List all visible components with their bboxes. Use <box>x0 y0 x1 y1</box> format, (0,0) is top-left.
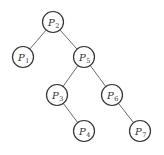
node-subscript: 5 <box>86 57 90 65</box>
tree-node-p5: P5 <box>74 47 95 68</box>
binary-tree-diagram: P2P1P5P3P6P4P7 <box>0 0 164 155</box>
tree-node-p1: P1 <box>13 47 34 68</box>
node-subscript: 3 <box>59 95 63 103</box>
tree-edge-n6-n7 <box>118 103 133 122</box>
node-subscript: 4 <box>86 131 90 139</box>
node-subscript: 7 <box>142 131 146 139</box>
edges <box>30 30 134 123</box>
node-subscript: 6 <box>114 95 118 103</box>
tree-node-p4: P4 <box>74 121 95 142</box>
tree-node-p7: P7 <box>130 121 151 142</box>
node-subscript: 1 <box>25 57 29 65</box>
tree-node-p2: P2 <box>43 12 64 33</box>
tree-edge-n2-n1 <box>30 30 46 49</box>
tree-edge-n5-n3 <box>63 66 78 87</box>
tree-edge-n2-n5 <box>60 30 77 49</box>
nodes: P2P1P5P3P6P4P7 <box>13 12 151 142</box>
tree-edge-n3-n4 <box>63 103 77 122</box>
tree-edge-n5-n6 <box>90 65 106 86</box>
node-subscript: 2 <box>55 22 59 30</box>
tree-node-p6: P6 <box>102 85 123 106</box>
tree-node-p3: P3 <box>47 85 68 106</box>
